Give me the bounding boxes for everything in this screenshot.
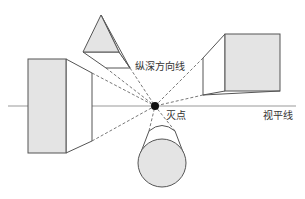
left-box (28, 59, 92, 153)
vanishing-point-label: 灭点 (166, 111, 186, 121)
right-cube (203, 34, 280, 95)
bottom-cylinder (138, 126, 186, 188)
perspective-diagram (0, 0, 305, 199)
left-box-front-face (28, 59, 66, 153)
depth-lines-label: 纵深方向线 (135, 62, 185, 72)
cube-side-face (203, 34, 225, 95)
left-box-side-face (66, 59, 92, 153)
cylinder-front-face (138, 139, 186, 187)
top-pyramid (83, 15, 130, 68)
horizon-line-label: 视平线 (263, 111, 293, 121)
cube-front-face (225, 34, 280, 91)
vanishing-point-dot (151, 102, 159, 110)
pyramid-front-face (83, 15, 119, 52)
